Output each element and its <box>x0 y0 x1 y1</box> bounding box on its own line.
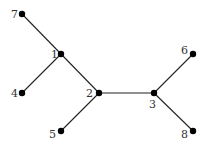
edges-group <box>22 14 193 131</box>
node-2 <box>96 90 102 96</box>
node-label-8: 8 <box>181 128 188 141</box>
node-label-5: 5 <box>49 128 56 141</box>
node-3 <box>151 90 157 96</box>
node-label-4: 4 <box>11 87 18 100</box>
edge-3-6 <box>154 54 193 93</box>
node-label-1: 1 <box>51 48 58 61</box>
tree-diagram: 12345678 <box>0 0 206 148</box>
node-label-3: 3 <box>149 98 156 111</box>
edge-3-8 <box>154 93 193 131</box>
node-1 <box>58 51 64 57</box>
node-6 <box>190 51 196 57</box>
edge-2-5 <box>61 93 99 131</box>
nodes-group <box>19 11 196 134</box>
labels-group: 12345678 <box>11 8 188 141</box>
node-5 <box>58 128 64 134</box>
edge-1-2 <box>61 54 99 93</box>
node-label-7: 7 <box>11 8 18 21</box>
node-label-6: 6 <box>181 44 188 57</box>
node-4 <box>19 90 25 96</box>
node-7 <box>19 11 25 17</box>
node-8 <box>190 128 196 134</box>
node-label-2: 2 <box>86 87 93 100</box>
